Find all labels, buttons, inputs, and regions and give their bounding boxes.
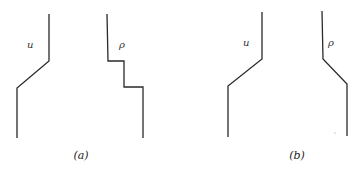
curve-a-u — [17, 14, 49, 138]
panel-b: u ρ (b) — [228, 11, 347, 162]
label-a-u: u — [27, 39, 33, 50]
caption-b: (b) — [289, 149, 305, 162]
label-a-rho: ρ — [118, 39, 125, 50]
speck — [334, 132, 335, 133]
label-b-rho: ρ — [327, 37, 334, 48]
curve-b-u — [228, 12, 262, 137]
curve-a-rho — [107, 14, 143, 138]
diagram-canvas: u ρ (a) u ρ (b) — [0, 0, 359, 172]
caption-a: (a) — [73, 149, 88, 162]
curve-b-rho — [322, 11, 347, 136]
label-b-u: u — [243, 37, 249, 48]
panel-a: u ρ (a) — [17, 14, 143, 162]
